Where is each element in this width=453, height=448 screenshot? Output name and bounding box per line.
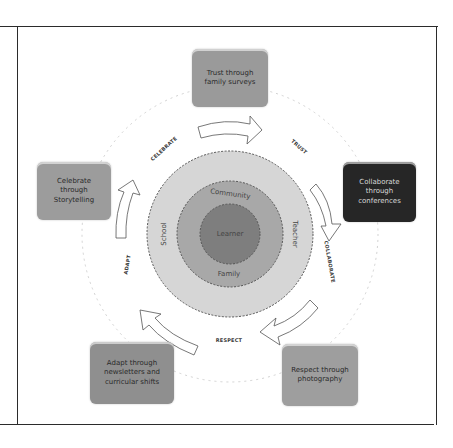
box-adapt-through-newsletters: Adapt through newsletters and curricular… bbox=[90, 342, 174, 404]
arrow-to-trust-icon bbox=[198, 116, 262, 144]
box-adapt-text: Adapt through newsletters and curricular… bbox=[90, 359, 174, 387]
phase-label-collaborate: COLLABORATE bbox=[323, 240, 336, 283]
box-collaborate-text: Collaborate through conferences bbox=[343, 178, 416, 206]
box-collaborate-through-conferences: Collaborate through conferences bbox=[343, 162, 416, 222]
family-label: Family bbox=[218, 270, 241, 278]
box-trust-through-family-surveys: Trust through family surveys bbox=[192, 49, 268, 107]
box-respect-text: Respect through photography bbox=[282, 366, 358, 385]
teacher-label: Teacher bbox=[291, 219, 299, 247]
phase-label-trust: TRUST bbox=[290, 138, 309, 156]
box-trust-text: Trust through family surveys bbox=[192, 69, 268, 88]
engagement-cycle-diagram: Learner Community Family School Teacher … bbox=[0, 0, 453, 448]
box-celebrate-through-storytelling: Celebrate through Storytelling bbox=[37, 162, 111, 220]
school-label: School bbox=[160, 222, 168, 245]
phase-label-adapt: ADAPT bbox=[122, 254, 131, 275]
arrow-to-celebrate-icon bbox=[116, 180, 140, 238]
phase-label-respect: RESPECT bbox=[216, 337, 243, 343]
box-celebrate-text: Celebrate through Storytelling bbox=[37, 177, 111, 205]
arrow-to-collaborate-icon bbox=[310, 184, 341, 241]
box-respect-through-photography: Respect through photography bbox=[282, 344, 358, 406]
phase-label-celebrate: CELEBRATE bbox=[149, 135, 178, 162]
learner-label: Learner bbox=[217, 230, 244, 238]
